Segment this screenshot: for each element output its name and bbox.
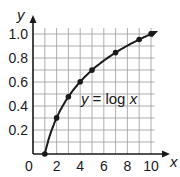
y-tick-label: 0.8	[9, 50, 29, 66]
x-tick-label: 10	[143, 158, 159, 174]
equation-label: y= log x	[80, 90, 138, 107]
data-point	[148, 31, 154, 37]
log-chart: 0246810 0.20.40.60.81.0 x y y= log x	[0, 0, 180, 177]
y-tick-label: 0.6	[9, 74, 29, 90]
y-tick-labels: 0.20.40.60.81.0	[9, 26, 29, 138]
x-tick-label: 8	[124, 158, 132, 174]
data-point	[66, 94, 72, 100]
data-point	[54, 115, 60, 121]
x-tick-label: 4	[76, 158, 84, 174]
data-point	[89, 67, 95, 73]
data-point	[113, 50, 119, 56]
data-point	[42, 151, 48, 157]
y-tick-label: 0.4	[9, 98, 29, 114]
x-tick-labels: 0246810	[25, 158, 159, 174]
data-point	[136, 37, 142, 43]
x-axis-label: x	[169, 153, 178, 170]
x-axis-arrow-icon	[162, 151, 170, 158]
data-point	[77, 79, 83, 85]
x-tick-label: 0	[25, 158, 33, 174]
y-axis-arrow-icon	[30, 15, 37, 23]
x-tick-label: 2	[53, 158, 61, 174]
y-axis-label: y	[16, 6, 26, 23]
x-tick-label: 6	[100, 158, 108, 174]
y-tick-label: 0.2	[9, 122, 29, 138]
y-tick-label: 1.0	[9, 26, 29, 42]
